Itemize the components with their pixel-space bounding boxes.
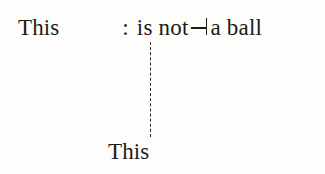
dashed-connector-line — [150, 42, 151, 137]
figure-canvas: This:is nota ball This — [0, 0, 325, 174]
sentence-row: This:is nota ball — [18, 13, 318, 45]
sentence-subject-word: This — [18, 13, 59, 43]
reverse-turnstile-icon — [191, 15, 207, 35]
predicate-after-symbol: a ball — [210, 13, 262, 43]
colon-mark: : — [122, 13, 131, 43]
reverse-turnstile-vertical-stroke — [206, 18, 208, 35]
predicate-before-symbol: is not — [137, 13, 189, 43]
referent-word: This — [108, 138, 149, 166]
reverse-turnstile-horizontal-stroke — [191, 27, 206, 29]
